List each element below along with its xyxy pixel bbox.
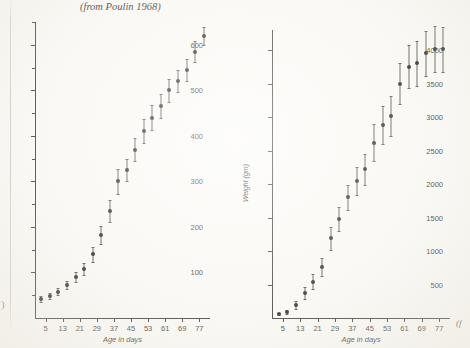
error-bar-cap-bottom: [66, 289, 69, 290]
data-point: [48, 294, 52, 298]
error-bar-cap-top: [125, 159, 128, 160]
error-bar-cap-bottom: [338, 231, 341, 232]
error-bar-cap-bottom: [48, 299, 51, 300]
data-point: [133, 148, 137, 152]
data-point: [303, 291, 307, 295]
error-bar-cap-bottom: [134, 161, 137, 162]
data-point: [424, 51, 428, 55]
x-tick-label: 21: [313, 324, 321, 333]
data-point: [329, 236, 333, 240]
error-bar-cap-bottom: [159, 118, 162, 119]
x-tick: [131, 318, 132, 322]
error-bar-cap-bottom: [433, 72, 436, 73]
x-tick-label: 29: [93, 324, 101, 333]
x-tick-label: 77: [195, 324, 203, 333]
y-tick-label: 2500: [426, 146, 443, 155]
error-bar-cap-bottom: [355, 195, 358, 196]
y-tick-label: 500: [430, 280, 443, 289]
x-tick: [370, 318, 371, 322]
error-bar-cap-top: [142, 119, 145, 120]
data-point: [381, 123, 385, 127]
y-tick: [31, 181, 35, 182]
x-tick: [165, 318, 166, 322]
error-bar-cap-top: [100, 226, 103, 227]
y-tick-label: 300: [190, 177, 203, 186]
y-axis-title: Weight (gm): [242, 164, 249, 202]
data-point: [389, 114, 393, 118]
x-tick-label: 69: [418, 324, 426, 333]
x-tick: [97, 318, 98, 322]
error-bar-cap-top: [74, 272, 77, 273]
data-point: [407, 65, 411, 69]
x-tick: [148, 318, 149, 322]
x-tick-label: 13: [296, 324, 304, 333]
error-bar-cap-bottom: [303, 299, 306, 300]
error-bar-cap-bottom: [373, 161, 376, 162]
y-tick-label: 500: [190, 86, 203, 95]
data-point: [433, 47, 437, 51]
y-tick: [268, 117, 272, 118]
x-tick: [352, 318, 353, 322]
error-bar-cap-top: [159, 94, 162, 95]
data-point: [320, 265, 324, 269]
error-bar-cap-bottom: [151, 130, 154, 131]
error-bar-cap-bottom: [442, 72, 445, 73]
x-tick: [283, 318, 284, 322]
error-bar-cap-top: [194, 41, 197, 42]
y-tick: [31, 136, 35, 137]
error-bar-cap-top: [312, 274, 315, 275]
data-point: [285, 310, 289, 314]
x-tick-label: 5: [44, 324, 48, 333]
data-point: [363, 167, 367, 171]
page-edge-line: [10, 0, 11, 348]
y-tick-minor: [32, 113, 35, 114]
error-bar-cap-bottom: [74, 282, 77, 283]
y-tick: [31, 90, 35, 91]
error-bar-cap-top: [416, 41, 419, 42]
error-bar-cap-top: [364, 154, 367, 155]
error-bar-cap-bottom: [40, 302, 43, 303]
x-tick: [422, 318, 423, 322]
data-point: [159, 104, 163, 108]
x-tick: [335, 318, 336, 322]
x-tick-label: 53: [144, 324, 152, 333]
data-point: [311, 280, 315, 284]
error-bar-cap-top: [185, 59, 188, 60]
error-bar-cap-bottom: [294, 309, 297, 310]
x-tick-label: 45: [127, 324, 135, 333]
data-point: [108, 209, 112, 213]
data-point: [99, 233, 103, 237]
data-point: [116, 179, 120, 183]
error-bar-cap-bottom: [194, 62, 197, 63]
x-tick: [46, 318, 47, 322]
error-bar-cap-bottom: [381, 144, 384, 145]
x-tick-label: 77: [435, 324, 443, 333]
data-point: [74, 275, 78, 279]
figure-caption: (d) Growth of young gannets Morus bassan…: [62, 0, 462, 12]
y-tick-minor: [32, 204, 35, 205]
error-bar-cap-top: [425, 31, 428, 32]
x-tick: [114, 318, 115, 322]
y-tick: [268, 184, 272, 185]
x-tick-label: 61: [400, 324, 408, 333]
error-bar-cap-bottom: [286, 314, 289, 315]
data-point: [193, 50, 197, 54]
error-bar-cap-top: [390, 96, 393, 97]
error-bar-cap-bottom: [346, 210, 349, 211]
y-axis-line: [35, 22, 36, 318]
error-bar-cap-top: [355, 167, 358, 168]
error-bar-cap-bottom: [185, 81, 188, 82]
error-bar-cap-bottom: [425, 76, 428, 77]
error-bar-cap-bottom: [100, 244, 103, 245]
data-point: [398, 82, 402, 86]
y-tick: [268, 84, 272, 85]
data-point: [82, 267, 86, 271]
x-tick: [80, 318, 81, 322]
x-tick: [199, 318, 200, 322]
error-bar-cap-top: [294, 301, 297, 302]
error-bar-cap-bottom: [407, 88, 410, 89]
error-bar-cap-top: [83, 263, 86, 264]
y-tick-minor: [32, 159, 35, 160]
error-bar-cap-top: [108, 200, 111, 201]
x-tick: [182, 318, 183, 322]
